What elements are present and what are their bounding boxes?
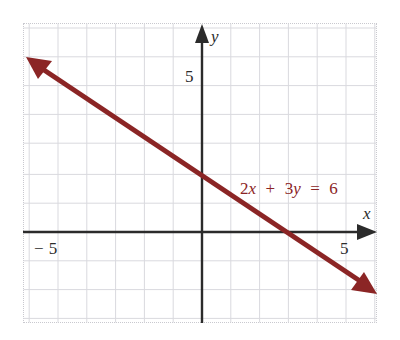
x-axis-label: x xyxy=(363,205,371,222)
equation-coef-y: 3 xyxy=(285,179,294,198)
equation-equals: = xyxy=(310,179,320,198)
y-tick-label-5: 5 xyxy=(185,68,194,85)
equation-label: 2x + 3y = 6 xyxy=(240,180,338,197)
x-tick-label-neg5: − 5 xyxy=(34,240,58,257)
equation-coef-x: 2 xyxy=(240,179,249,198)
equation-var-y: y xyxy=(293,179,301,198)
equation-rhs: 6 xyxy=(329,179,338,198)
x-tick-label-5: 5 xyxy=(340,240,349,257)
y-axis-label: y xyxy=(211,28,219,45)
plot-frame xyxy=(23,23,377,323)
equation-var-x: x xyxy=(249,179,257,198)
graph-figure: y x 5 − 5 5 2x + 3y = 6 xyxy=(0,0,400,340)
equation-plus: + xyxy=(266,179,276,198)
